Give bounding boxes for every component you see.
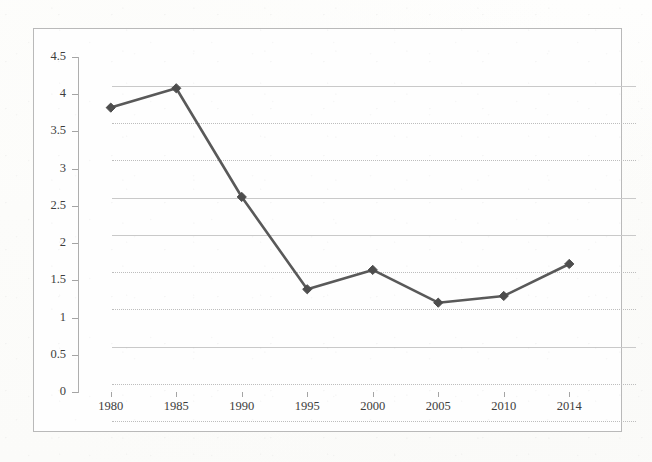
y-axis-tick-mark xyxy=(72,355,78,356)
y-axis-tick-mark xyxy=(72,280,78,281)
x-axis-tick-label: 1995 xyxy=(272,400,342,413)
y-axis-line xyxy=(78,57,79,393)
y-axis-tick-label: 2 xyxy=(8,236,66,249)
x-axis-tick-mark xyxy=(242,392,243,397)
gridline xyxy=(112,86,636,87)
gridline xyxy=(112,309,636,310)
x-axis-tick-label: 2000 xyxy=(338,400,408,413)
y-axis-tick-mark xyxy=(72,318,78,319)
y-axis-tick-label: 4.5 xyxy=(8,50,66,63)
y-axis-tick-mark xyxy=(72,243,78,244)
x-axis-tick-mark xyxy=(569,392,570,397)
x-axis-tick-mark xyxy=(176,392,177,397)
gridline xyxy=(112,384,636,385)
gridline xyxy=(112,198,636,199)
y-axis-tick-label: 0 xyxy=(8,385,66,398)
x-axis-tick-label: 1985 xyxy=(141,400,211,413)
x-axis-tick-mark xyxy=(438,392,439,397)
y-axis-tick-label: 1 xyxy=(8,311,66,324)
y-axis-tick-mark xyxy=(72,131,78,132)
gridline xyxy=(112,347,636,348)
x-axis-tick-mark xyxy=(307,392,308,397)
y-axis-tick-label: 1.5 xyxy=(8,273,66,286)
y-axis-tick-mark xyxy=(72,206,78,207)
y-axis-tick-label: 4 xyxy=(8,87,66,100)
y-axis-tick-mark xyxy=(72,57,78,58)
x-axis-tick-mark xyxy=(373,392,374,397)
x-axis-tick-label: 1990 xyxy=(207,400,277,413)
gridline xyxy=(112,421,636,422)
gridline xyxy=(112,272,636,273)
plot-area xyxy=(112,86,636,421)
y-axis-tick-label: 2.5 xyxy=(8,199,66,212)
y-axis-tick-label: 0.5 xyxy=(8,348,66,361)
gridline xyxy=(112,235,636,236)
x-axis-tick-label: 2005 xyxy=(403,400,473,413)
y-axis-tick-label: 3.5 xyxy=(8,124,66,137)
x-axis-tick-mark xyxy=(504,392,505,397)
x-axis-tick-mark xyxy=(111,392,112,397)
y-axis-tick-mark xyxy=(72,392,78,393)
y-axis-tick-mark xyxy=(72,169,78,170)
x-axis-tick-label: 2010 xyxy=(469,400,539,413)
x-axis-tick-label: 1980 xyxy=(76,400,146,413)
y-axis-tick-mark xyxy=(72,94,78,95)
chart-frame xyxy=(33,28,622,432)
gridline xyxy=(112,123,636,124)
gridline xyxy=(112,160,636,161)
y-axis-tick-label: 3 xyxy=(8,162,66,175)
x-axis-tick-label: 2014 xyxy=(534,400,604,413)
